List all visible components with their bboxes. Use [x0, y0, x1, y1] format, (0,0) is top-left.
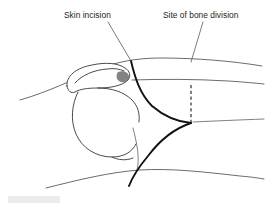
anatomy-contours	[20, 58, 264, 188]
skin-incision-leader-line	[108, 22, 131, 61]
upper-arm-top-contour	[20, 58, 262, 100]
bone-structures	[67, 63, 139, 159]
upper-arm-lower-contour	[132, 79, 264, 84]
humeral-head-outline	[72, 92, 136, 157]
labels: Skin incision Site of bone division	[64, 10, 239, 20]
shoulder-crease-contour	[193, 119, 264, 122]
skin-incision-label: Skin incision	[64, 10, 111, 20]
bone-division-leader-line	[191, 22, 203, 62]
humeral-head-upper-outline	[98, 88, 139, 122]
skin-incision-upper-curve	[131, 61, 191, 123]
humeral-neck-notch	[112, 157, 133, 160]
arm-underside-contour	[133, 128, 138, 170]
site-of-bone-division-label: Site of bone division	[163, 10, 239, 20]
torso-bottom-contour	[46, 169, 264, 188]
medical-illustration-figure: Skin incision Site of bone division	[0, 0, 266, 208]
leader-lines	[108, 22, 203, 62]
illustration-canvas: Skin incision Site of bone division	[0, 0, 266, 208]
watermark-bar	[8, 196, 60, 203]
